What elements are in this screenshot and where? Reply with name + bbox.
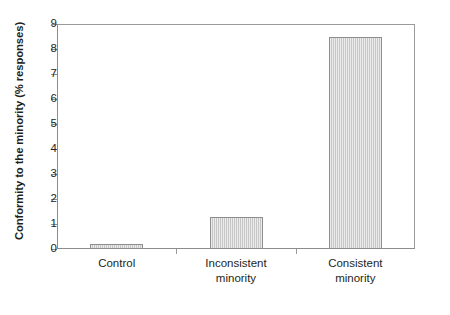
y-axis-tick-label: 3 (13, 168, 57, 180)
y-axis-tick-label: 5 (13, 118, 57, 130)
bar (329, 37, 382, 250)
y-axis-tick-label: 2 (13, 193, 57, 205)
x-axis-labels: ControlInconsistentminorityConsistentmin… (57, 256, 415, 306)
bars-layer (57, 24, 415, 249)
x-axis-category-label: Control (57, 256, 176, 271)
bar (210, 217, 263, 250)
y-axis-tick-label: 1 (13, 218, 57, 230)
y-axis: 0123456789 (0, 0, 57, 315)
y-axis-tick-label: 6 (13, 93, 57, 105)
y-axis-tick-label: 9 (13, 18, 57, 30)
y-axis-tick-label: 7 (13, 68, 57, 80)
y-axis-tick-label: 8 (13, 43, 57, 55)
x-axis-category-label-line: Control (57, 256, 176, 271)
x-axis-category-label: Inconsistentminority (176, 256, 295, 286)
y-axis-tick-label: 0 (13, 243, 57, 255)
x-axis-category-label-line: minority (176, 271, 295, 286)
x-axis-ticks (57, 249, 415, 255)
x-axis-category-label-line: Inconsistent (176, 256, 295, 271)
x-axis-tick (296, 249, 297, 254)
x-axis-tick (176, 249, 177, 254)
x-axis-category-label-line: Consistent (296, 256, 415, 271)
x-axis-category-label: Consistentminority (296, 256, 415, 286)
bar-chart: Conformity to the minority (% responses)… (0, 0, 450, 315)
x-axis-category-label-line: minority (296, 271, 415, 286)
y-axis-tick-label: 4 (13, 143, 57, 155)
